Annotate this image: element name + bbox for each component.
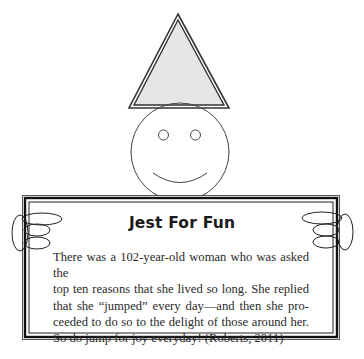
body-line: that she “jumped” every day—and then she…: [53, 298, 309, 314]
body-line: There was a 102-year-old woman who was a…: [53, 249, 309, 281]
body-line: top ten reasons that she lived so long. …: [53, 281, 309, 297]
sign-body-text: There was a 102-year-old woman who was a…: [53, 249, 309, 346]
sign-title: Jest For Fun: [22, 214, 342, 232]
body-line: ceeded to do so to the delight of those …: [53, 314, 309, 330]
party-hat-icon: [129, 14, 229, 108]
smiley-face-icon: [131, 103, 229, 201]
body-line: So do jump for joy everyday! (Roberts, 2…: [53, 330, 309, 346]
